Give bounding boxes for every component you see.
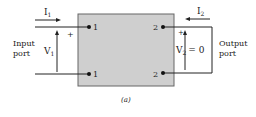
two-port-diagram: I1 + V1 Input port 1 1 2 2 I2 + V2= 0 Ou…	[0, 0, 256, 117]
terminal-label: 1	[93, 70, 98, 79]
plus-sign: +	[178, 29, 184, 37]
input-port-label: port	[13, 49, 31, 58]
i2-label: I2	[197, 6, 205, 17]
terminal-dot	[161, 25, 165, 29]
v1-label: V1	[43, 46, 54, 57]
i1-label: I1	[44, 7, 51, 18]
terminal-label: 2	[153, 70, 158, 79]
plus-sign: +	[67, 30, 74, 39]
input-port-label: Input	[13, 39, 36, 48]
figure-caption: (a)	[121, 96, 131, 104]
output-port-label: port	[219, 49, 237, 58]
terminal-dot	[87, 72, 91, 76]
terminal-label: 1	[93, 23, 98, 32]
terminal-label: 2	[153, 23, 158, 32]
terminal-dot	[87, 25, 91, 29]
output-port-label: Output	[219, 39, 248, 48]
terminal-dot	[161, 71, 165, 75]
v2-label: V2= 0	[175, 45, 205, 56]
